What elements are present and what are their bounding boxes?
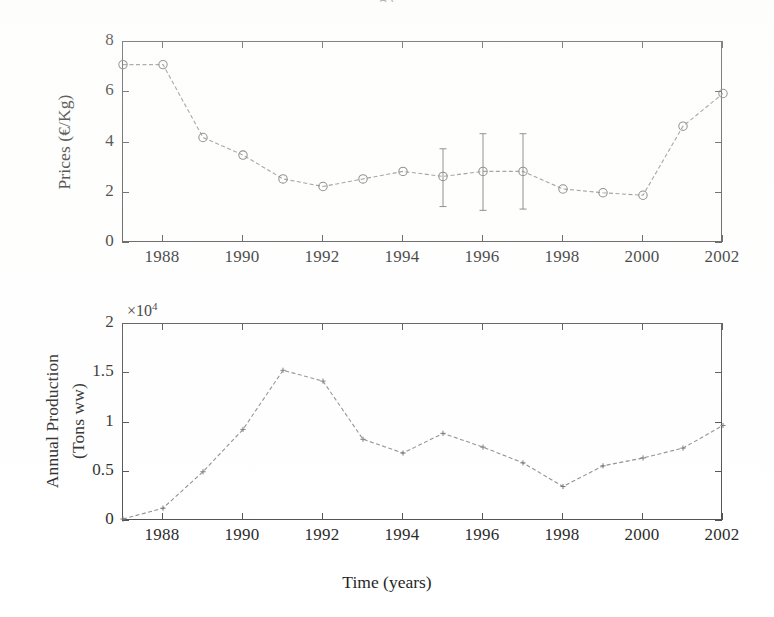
xtick-label: 1994: [362, 247, 442, 267]
xtick-label: 1998: [522, 247, 602, 267]
xtick-mark-top: [482, 323, 483, 330]
ytick-mark-right: [715, 242, 722, 243]
ytick-mark: [122, 142, 129, 143]
xtick-mark: [162, 513, 163, 520]
xtick-mark-top: [242, 323, 243, 330]
data-point-marker: [239, 151, 247, 159]
error-bar: [440, 149, 447, 207]
xtick-mark-top: [562, 323, 563, 330]
production-y-multiplier-exponent: 4: [152, 300, 158, 312]
xtick-label: 2000: [602, 525, 682, 545]
production-y-axis-label-line1: Annual Production: [42, 354, 63, 488]
xtick-mark: [402, 513, 403, 520]
data-point-marker: [600, 463, 605, 468]
production-series-svg: [123, 324, 723, 521]
xtick-mark-top: [722, 323, 723, 330]
xtick-mark: [322, 235, 323, 242]
xtick-mark-top: [482, 41, 483, 48]
xtick-label: 1994: [362, 525, 442, 545]
xtick-mark-top: [722, 41, 723, 48]
ytick-mark: [122, 192, 129, 193]
xtick-label: 1990: [202, 525, 282, 545]
prices-plot-area: [122, 41, 722, 242]
ytick-mark-right: [715, 323, 722, 324]
ytick-mark-right: [715, 142, 722, 143]
figure-root: g ( 02468 198819901992199419961998200020…: [0, 0, 774, 617]
ytick-mark: [122, 372, 129, 373]
xtick-mark-top: [642, 41, 643, 48]
two-panel-figure: g ( 02468 198819901992199419961998200020…: [0, 0, 774, 617]
data-point-marker: [720, 423, 725, 428]
xtick-mark: [482, 235, 483, 242]
xtick-mark: [482, 513, 483, 520]
xtick-mark: [562, 235, 563, 242]
xtick-mark: [562, 513, 563, 520]
xtick-mark-top: [562, 41, 563, 48]
prices-series-svg: [123, 42, 723, 243]
xtick-mark: [322, 513, 323, 520]
ytick-label: 2: [26, 312, 114, 332]
data-point-marker: [160, 506, 165, 511]
ytick-mark: [122, 41, 129, 42]
xtick-mark-top: [402, 41, 403, 48]
xtick-mark-top: [322, 41, 323, 48]
xtick-mark: [642, 235, 643, 242]
xtick-mark-top: [402, 323, 403, 330]
ytick-mark-right: [715, 471, 722, 472]
ytick-label: 1.5: [26, 361, 114, 381]
data-point-marker: [640, 455, 645, 460]
production-plot-area: [122, 323, 722, 520]
ytick-mark-right: [715, 41, 722, 42]
ytick-mark: [122, 471, 129, 472]
ytick-label: 0: [26, 231, 114, 251]
xtick-mark-top: [642, 323, 643, 330]
xtick-mark: [162, 235, 163, 242]
xtick-mark: [642, 513, 643, 520]
data-point-marker: [680, 446, 685, 451]
ytick-label: 0: [26, 509, 114, 529]
xtick-label: 1988: [122, 247, 202, 267]
ytick-mark-right: [715, 91, 722, 92]
xtick-label: 1992: [282, 525, 362, 545]
xtick-label: 1998: [522, 525, 602, 545]
xtick-mark: [722, 513, 723, 520]
xtick-mark-top: [162, 41, 163, 48]
xtick-label: 1988: [122, 525, 202, 545]
series-line: [123, 65, 723, 196]
data-point-marker: [520, 460, 525, 465]
production-y-multiplier: ×104: [127, 300, 158, 320]
error-bar: [520, 134, 527, 209]
xtick-mark: [402, 235, 403, 242]
series-line: [123, 370, 723, 519]
ytick-label: 0.5: [26, 460, 114, 480]
data-point-marker: [480, 445, 485, 450]
data-point-marker: [400, 450, 405, 455]
x-axis-title: Time (years): [0, 572, 774, 593]
production-y-axis-label-line2: (Tons ww): [68, 383, 89, 459]
xtick-mark-top: [162, 323, 163, 330]
xtick-label: 2002: [682, 247, 762, 267]
xtick-mark: [242, 513, 243, 520]
xtick-mark-top: [242, 41, 243, 48]
xtick-label: 1996: [442, 525, 522, 545]
data-point-marker: [440, 431, 445, 436]
error-bar: [480, 134, 487, 211]
xtick-label: 2000: [602, 247, 682, 267]
xtick-mark: [722, 235, 723, 242]
ytick-mark: [122, 520, 129, 521]
ytick-mark: [122, 242, 129, 243]
production-y-multiplier-base: ×10: [127, 302, 152, 319]
clipped-caption-fragment: g (: [0, 0, 774, 2]
xtick-label: 1990: [202, 247, 282, 267]
ytick-mark-right: [715, 372, 722, 373]
xtick-label: 1996: [442, 247, 522, 267]
ytick-label: 8: [26, 30, 114, 50]
data-point-marker: [199, 133, 207, 141]
xtick-label: 2002: [682, 525, 762, 545]
xtick-label: 1992: [282, 247, 362, 267]
ytick-mark: [122, 91, 129, 92]
ytick-mark-right: [715, 192, 722, 193]
data-point-marker: [560, 484, 565, 489]
ytick-mark: [122, 422, 129, 423]
xtick-mark: [242, 235, 243, 242]
